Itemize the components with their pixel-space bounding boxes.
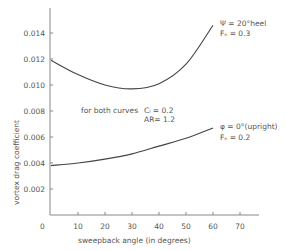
x-origin-label: 0 xyxy=(40,222,45,231)
y-tick-label: 0.006 xyxy=(24,133,46,142)
series-heel-label-2: Fₙ = 0.3 xyxy=(220,29,251,38)
series-line-upright xyxy=(51,128,213,166)
x-tick-label: 50 xyxy=(181,222,191,231)
annotation-both-curves: for both curves xyxy=(81,106,138,115)
series-upright-label-1: φ = 0°(upright) xyxy=(220,122,278,131)
series-upright-label-2: Fₙ = 0.2 xyxy=(220,133,251,142)
y-tick-label: 0.014 xyxy=(24,29,46,38)
annotation-ar: AR= 1.2 xyxy=(144,115,175,124)
y-tick-label: 0.004 xyxy=(24,159,46,168)
series-line-heel xyxy=(51,25,213,89)
x-tick-label: 20 xyxy=(100,222,110,231)
y-tick-label: 0.012 xyxy=(24,55,46,64)
y-axis-title: vortex drag coefficient xyxy=(12,120,21,205)
x-tick-label: 10 xyxy=(73,222,83,231)
x-tick-label: 60 xyxy=(208,222,218,231)
y-tick-label: 0.002 xyxy=(24,185,46,194)
y-tick-label: 0.010 xyxy=(24,81,46,90)
x-tick-label: 30 xyxy=(127,222,137,231)
x-tick-label: 40 xyxy=(154,222,164,231)
chart: 0.0140.0120.0100.0080.0060.0040.002 1020… xyxy=(0,0,286,251)
x-axis-title: sweepback angle (in degrees) xyxy=(78,236,191,245)
x-tick-label: 70 xyxy=(235,222,245,231)
series-heel-label-1: Ψ = 20°heel xyxy=(220,19,266,28)
annotation-cl: Cₗ = 0.2 xyxy=(144,106,174,115)
y-tick-label: 0.008 xyxy=(24,107,46,116)
